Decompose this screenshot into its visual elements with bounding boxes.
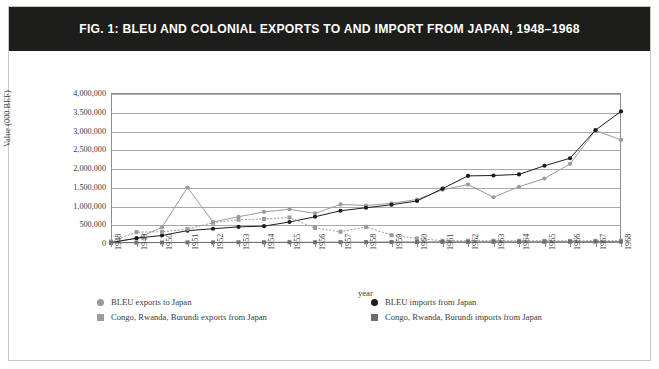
legend-item-label: Congo, Rwanda, Burundi exports from Japa… xyxy=(111,312,267,322)
x-axis-tick-label: 1949 xyxy=(140,234,149,250)
y-axis-tick-label: 0 xyxy=(102,239,106,248)
y-axis-tick-label: 2,000,000 xyxy=(73,164,106,173)
legend-item-label: Congo, Rwanda, Burundi imports from Japa… xyxy=(385,312,542,322)
square-marker-icon xyxy=(135,230,139,234)
circle-marker-icon xyxy=(97,299,104,306)
circle-marker-icon xyxy=(236,225,240,229)
x-axis-tick xyxy=(366,243,367,247)
x-axis-tick-label: 1955 xyxy=(293,234,302,250)
circle-marker-icon xyxy=(568,156,572,160)
x-axis-tick-label: 1959 xyxy=(395,234,404,250)
circle-marker-icon xyxy=(415,199,419,203)
x-axis-tick xyxy=(315,243,316,247)
y-axis-tick-label: 1,500,000 xyxy=(73,182,106,191)
square-marker-icon xyxy=(313,226,317,230)
legend-item[interactable]: BLEU imports from Japan xyxy=(371,297,476,307)
x-axis-tick-label: 1952 xyxy=(216,234,225,250)
square-marker-icon xyxy=(288,216,292,220)
x-axis-tick xyxy=(290,243,291,247)
x-axis-tick xyxy=(545,243,546,247)
x-axis-tick-label: 1954 xyxy=(267,234,276,250)
circle-marker-icon xyxy=(262,224,266,228)
square-marker-icon xyxy=(237,218,241,222)
figure-title: FIG. 1: BLEU AND COLONIAL EXPORTS TO AND… xyxy=(79,22,580,36)
x-axis-tick xyxy=(111,243,112,247)
y-axis-tick-label: 1,000,000 xyxy=(73,201,106,210)
circle-marker-icon xyxy=(440,187,444,191)
circle-marker-icon xyxy=(542,176,546,180)
x-axis-tick xyxy=(137,243,138,247)
y-axis-tick-label: 500,000 xyxy=(79,220,106,229)
x-axis-tick-label: 1967 xyxy=(599,234,608,250)
x-axis-tick-label: 1957 xyxy=(344,234,353,250)
circle-marker-icon xyxy=(517,185,521,189)
x-axis-tick xyxy=(213,243,214,247)
x-axis-tick xyxy=(443,243,444,247)
chart-legend: BLEU exports to JapanBLEU imports from J… xyxy=(9,297,650,337)
circle-marker-icon xyxy=(287,207,291,211)
x-axis-tick xyxy=(239,243,240,247)
circle-marker-icon xyxy=(160,233,164,237)
circle-marker-icon xyxy=(211,227,215,231)
circle-marker-icon xyxy=(185,185,189,189)
square-marker-icon xyxy=(371,314,378,321)
x-axis-tick-label: 1950 xyxy=(165,234,174,250)
x-axis-tick-label: 1962 xyxy=(471,234,480,250)
x-axis-tick-label: 1948 xyxy=(114,234,123,250)
square-marker-icon xyxy=(390,233,394,237)
x-axis-tick-label: 1958 xyxy=(369,234,378,250)
x-axis-tick-label: 1963 xyxy=(497,234,506,250)
legend-item-label: BLEU exports to Japan xyxy=(111,297,191,307)
legend-item-label: BLEU imports from Japan xyxy=(385,297,476,307)
circle-marker-icon xyxy=(466,182,470,186)
square-marker-icon xyxy=(211,221,215,225)
circle-marker-icon xyxy=(338,209,342,213)
y-axis-tick-label: 3,500,000 xyxy=(73,107,106,116)
chart-area: Value (000 BEF) 0500,0001,000,0001,500,0… xyxy=(9,51,650,360)
x-axis-tick-label: 1965 xyxy=(548,234,557,250)
x-axis-tick xyxy=(188,243,189,247)
x-axis-tick xyxy=(621,243,622,247)
square-marker-icon xyxy=(364,225,368,229)
x-axis-tick xyxy=(494,243,495,247)
circle-marker-icon xyxy=(313,215,317,219)
y-axis-tick-label: 4,000,000 xyxy=(73,89,106,98)
square-marker-icon xyxy=(97,314,104,321)
circle-marker-icon xyxy=(262,210,266,214)
square-marker-icon xyxy=(339,230,343,234)
square-marker-icon xyxy=(186,227,190,231)
y-axis-tick-label: 3,000,000 xyxy=(73,126,106,135)
x-axis-tick-label: 1956 xyxy=(318,234,327,250)
circle-marker-icon xyxy=(160,225,164,229)
x-axis-tick-label: 1951 xyxy=(191,234,200,250)
circle-marker-icon xyxy=(338,202,342,206)
x-axis-tick xyxy=(341,243,342,247)
square-marker-icon xyxy=(262,217,266,221)
x-axis-tick-label: 1961 xyxy=(446,234,455,250)
circle-marker-icon xyxy=(389,203,393,207)
x-axis-tick xyxy=(162,243,163,247)
x-axis-tick xyxy=(570,243,571,247)
x-axis-tick xyxy=(468,243,469,247)
square-marker-icon xyxy=(415,237,419,241)
circle-marker-icon xyxy=(619,138,623,142)
x-axis-tick xyxy=(596,243,597,247)
circle-marker-icon xyxy=(364,206,368,210)
figure-title-bar: FIG. 1: BLEU AND COLONIAL EXPORTS TO AND… xyxy=(9,7,650,51)
x-axis-tick-label: 1953 xyxy=(242,234,251,250)
circle-marker-icon xyxy=(491,195,495,199)
legend-item[interactable]: Congo, Rwanda, Burundi imports from Japa… xyxy=(371,312,542,322)
x-axis-tick-label: 1968 xyxy=(624,234,633,250)
legend-item[interactable]: BLEU exports to Japan xyxy=(97,297,191,307)
circle-marker-icon xyxy=(619,109,623,113)
circle-marker-icon xyxy=(568,162,572,166)
series-layer xyxy=(111,93,621,243)
x-axis-tick xyxy=(519,243,520,247)
legend-item[interactable]: Congo, Rwanda, Burundi exports from Japa… xyxy=(97,312,267,322)
x-axis-tick xyxy=(392,243,393,247)
x-axis-tick-label: 1964 xyxy=(522,234,531,250)
circle-marker-icon xyxy=(371,299,378,306)
x-axis-tick xyxy=(417,243,418,247)
x-axis-tick-label: 1960 xyxy=(420,234,429,250)
figure-page: FIG. 1: BLEU AND COLONIAL EXPORTS TO AND… xyxy=(0,0,659,369)
